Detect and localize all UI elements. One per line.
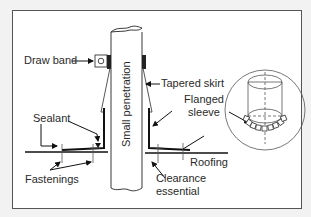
label-small-penetration: Small penetration: [120, 61, 132, 147]
label-flanged-sleeve-line1: Flanged: [178, 93, 230, 106]
label-roofing: Roofing: [190, 156, 228, 169]
label-tapered-skirt: Tapered skirt: [161, 77, 224, 90]
label-sealant: Sealant: [33, 112, 70, 125]
diagram: Draw band Tapered skirt Flanged sleeve S…: [0, 0, 311, 217]
label-flanged-sleeve-line2: sleeve: [178, 106, 230, 119]
label-fastenings: Fastenings: [25, 173, 79, 186]
label-clearance-essential: Clearance essential: [156, 172, 206, 198]
label-flanged-sleeve: Flanged sleeve: [178, 93, 230, 119]
label-draw-band: Draw band: [24, 54, 77, 67]
label-clearance-line1: Clearance: [156, 172, 206, 185]
label-clearance-line2: essential: [156, 185, 206, 198]
